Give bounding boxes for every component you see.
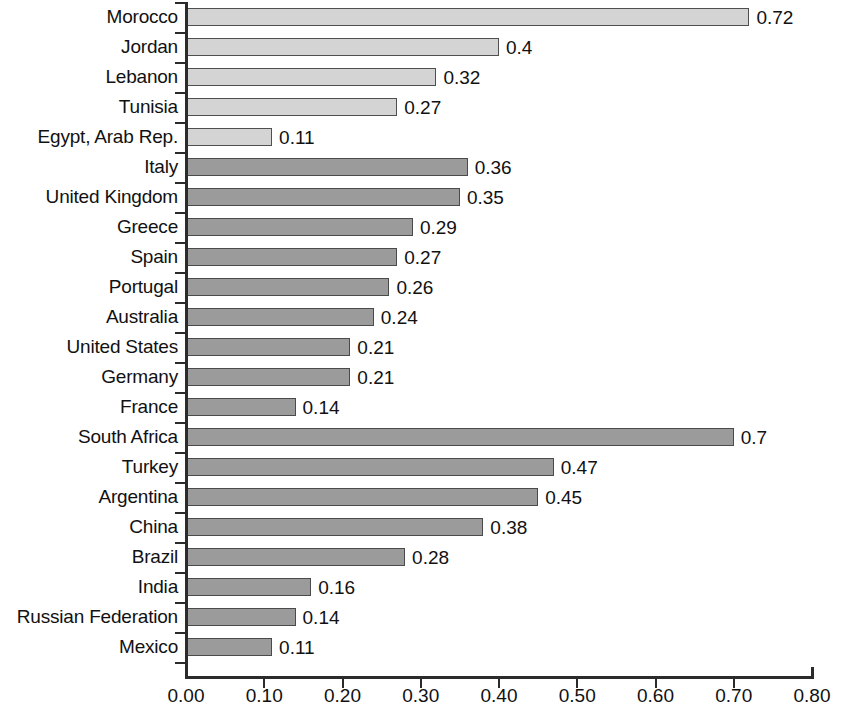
category-label: South Africa bbox=[0, 427, 178, 447]
category-label: Turkey bbox=[0, 457, 178, 477]
bar bbox=[186, 638, 272, 656]
category-label: Greece bbox=[0, 217, 178, 237]
bar-row: China0.38 bbox=[0, 512, 841, 542]
bar-value-label: 0.35 bbox=[467, 188, 504, 207]
bar bbox=[186, 608, 296, 626]
bar-row: Russian Federation0.14 bbox=[0, 602, 841, 632]
bar-value-label: 0.36 bbox=[475, 158, 512, 177]
bar-with-value: 0.14 bbox=[186, 398, 340, 416]
x-axis-tick bbox=[811, 667, 814, 679]
y-axis-tick bbox=[175, 512, 186, 514]
bar-row: Brazil0.28 bbox=[0, 542, 841, 572]
x-axis-tick-label: 0.80 bbox=[767, 686, 841, 705]
bar-row: Morocco0.72 bbox=[0, 2, 841, 32]
bar-row: Australia0.24 bbox=[0, 302, 841, 332]
bar-value-label: 0.27 bbox=[404, 98, 441, 117]
bar-with-value: 0.14 bbox=[186, 608, 340, 626]
bar bbox=[186, 428, 734, 446]
bar-with-value: 0.38 bbox=[186, 518, 527, 536]
bar bbox=[186, 248, 397, 266]
bar bbox=[186, 368, 350, 386]
x-axis-tick bbox=[185, 667, 188, 679]
bar-with-value: 0.32 bbox=[186, 68, 480, 86]
bar-row: Germany0.21 bbox=[0, 362, 841, 392]
bar-value-label: 0.14 bbox=[303, 608, 340, 627]
bar-value-label: 0.11 bbox=[279, 128, 315, 147]
category-label: Lebanon bbox=[0, 67, 178, 87]
bar bbox=[186, 518, 483, 536]
bar-with-value: 0.47 bbox=[186, 458, 598, 476]
bar-row: Egypt, Arab Rep.0.11 bbox=[0, 122, 841, 152]
bar-with-value: 0.45 bbox=[186, 488, 582, 506]
bar-with-value: 0.72 bbox=[186, 8, 793, 26]
bar bbox=[186, 338, 350, 356]
bar-with-value: 0.11 bbox=[186, 638, 315, 656]
bar-value-label: 0.16 bbox=[318, 578, 355, 597]
bar-with-value: 0.11 bbox=[186, 128, 315, 146]
bar-with-value: 0.21 bbox=[186, 338, 394, 356]
y-axis-tick bbox=[175, 422, 186, 424]
bar-value-label: 0.47 bbox=[561, 458, 598, 477]
y-axis-tick bbox=[175, 212, 186, 214]
bar bbox=[186, 458, 554, 476]
category-label: India bbox=[0, 577, 178, 597]
bar-row: Jordan0.4 bbox=[0, 32, 841, 62]
bar bbox=[186, 308, 374, 326]
bar bbox=[186, 98, 397, 116]
category-label: France bbox=[0, 397, 178, 417]
y-axis-tick bbox=[175, 392, 186, 394]
x-axis-tick-label: 0.60 bbox=[611, 686, 701, 705]
x-axis-tick-label: 0.20 bbox=[298, 686, 388, 705]
y-axis-tick bbox=[175, 662, 186, 664]
category-label: Egypt, Arab Rep. bbox=[0, 127, 178, 147]
y-axis-tick bbox=[175, 542, 186, 544]
y-axis-tick bbox=[175, 152, 186, 154]
category-label: Germany bbox=[0, 367, 178, 387]
bar-value-label: 0.27 bbox=[404, 248, 441, 267]
y-axis-tick bbox=[175, 332, 186, 334]
category-label: China bbox=[0, 517, 178, 537]
y-axis-tick bbox=[175, 572, 186, 574]
bar-with-value: 0.27 bbox=[186, 98, 441, 116]
category-label: Russian Federation bbox=[0, 607, 178, 627]
bar-row: Greece0.29 bbox=[0, 212, 841, 242]
y-axis-tick bbox=[175, 242, 186, 244]
bar-value-label: 0.11 bbox=[279, 638, 315, 657]
bar-value-label: 0.72 bbox=[756, 8, 793, 27]
bar-row: Mexico0.11 bbox=[0, 632, 841, 662]
category-label: Brazil bbox=[0, 547, 178, 567]
bar-value-label: 0.29 bbox=[420, 218, 457, 237]
bar bbox=[186, 158, 468, 176]
category-label: Argentina bbox=[0, 487, 178, 507]
bar bbox=[186, 488, 538, 506]
y-axis-tick bbox=[175, 62, 186, 64]
bar-with-value: 0.24 bbox=[186, 308, 418, 326]
bar-chart: Morocco0.72Jordan0.4Lebanon0.32Tunisia0.… bbox=[0, 0, 841, 705]
category-label: Jordan bbox=[0, 37, 178, 57]
bar-with-value: 0.28 bbox=[186, 548, 449, 566]
bar-with-value: 0.29 bbox=[186, 218, 457, 236]
bar-with-value: 0.16 bbox=[186, 578, 355, 596]
bar-with-value: 0.35 bbox=[186, 188, 504, 206]
y-axis-tick bbox=[175, 452, 186, 454]
x-axis-tick-label: 0.00 bbox=[141, 686, 231, 705]
category-label: Morocco bbox=[0, 7, 178, 27]
bar bbox=[186, 68, 436, 86]
bar-row: Italy0.36 bbox=[0, 152, 841, 182]
bar-value-label: 0.4 bbox=[506, 38, 532, 57]
y-axis-tick bbox=[175, 122, 186, 124]
y-axis-tick bbox=[175, 92, 186, 94]
bar bbox=[186, 398, 296, 416]
bar-value-label: 0.21 bbox=[357, 368, 394, 387]
x-axis-tick-label: 0.40 bbox=[454, 686, 544, 705]
bar bbox=[186, 8, 749, 26]
bar-row: United Kingdom0.35 bbox=[0, 182, 841, 212]
y-axis-tick bbox=[175, 302, 186, 304]
bar-row: Portugal0.26 bbox=[0, 272, 841, 302]
bar bbox=[186, 548, 405, 566]
bar-value-label: 0.28 bbox=[412, 548, 449, 567]
y-axis-tick bbox=[175, 32, 186, 34]
bar bbox=[186, 278, 389, 296]
bar-with-value: 0.7 bbox=[186, 428, 767, 446]
category-label: Australia bbox=[0, 307, 178, 327]
